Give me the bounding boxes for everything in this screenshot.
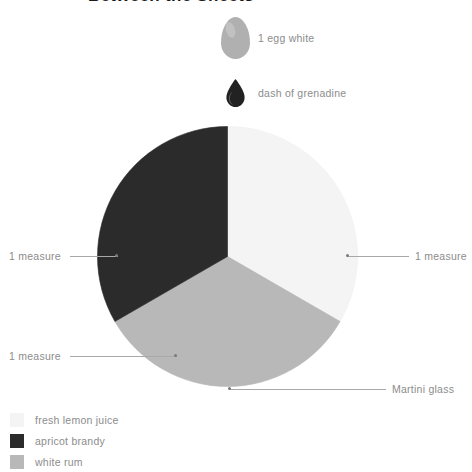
legend-item-white-rum: white rum <box>10 451 119 472</box>
leader-line-fresh-lemon-juice <box>347 256 409 257</box>
legend-swatch-apricot-brandy <box>10 434 24 448</box>
legend-item-fresh-lemon-juice: fresh lemon juice <box>10 409 119 430</box>
ingredient-row-grenadine: dash of grenadine <box>212 79 346 107</box>
leader-line-white-rum <box>70 356 177 357</box>
legend-item-apricot-brandy: apricot brandy <box>10 430 119 451</box>
legend-label-fresh-lemon-juice: fresh lemon juice <box>35 414 119 426</box>
legend-swatch-fresh-lemon-juice <box>10 413 24 427</box>
leader-dot-glassware <box>228 387 231 390</box>
legend-label-white-rum: white rum <box>35 456 83 468</box>
callout-glassware: Martini glass <box>392 383 454 395</box>
leader-line-apricot-brandy <box>70 256 118 257</box>
page-title: Between the Sheets <box>88 0 254 6</box>
callout-apricot-brandy: 1 measure <box>9 250 61 262</box>
ingredient-row-egg-white: 1 egg white <box>212 17 314 59</box>
legend: fresh lemon juice apricot brandy white r… <box>10 409 119 472</box>
pie-chart <box>97 126 358 387</box>
leader-dot-white-rum <box>174 354 177 357</box>
egg-icon <box>212 17 258 59</box>
callout-fresh-lemon-juice: 1 measure <box>415 250 467 262</box>
ingredient-label-egg-white: 1 egg white <box>258 32 314 44</box>
leader-line-glassware <box>229 389 386 390</box>
legend-label-apricot-brandy: apricot brandy <box>35 435 105 447</box>
legend-swatch-white-rum <box>10 455 24 469</box>
ingredient-label-grenadine: dash of grenadine <box>258 87 346 99</box>
page-title-strip: Between the Sheets <box>0 0 472 6</box>
callout-white-rum: 1 measure <box>9 350 61 362</box>
leader-dot-fresh-lemon-juice <box>346 254 349 257</box>
leader-dot-apricot-brandy <box>115 254 118 257</box>
droplet-icon <box>212 79 258 107</box>
